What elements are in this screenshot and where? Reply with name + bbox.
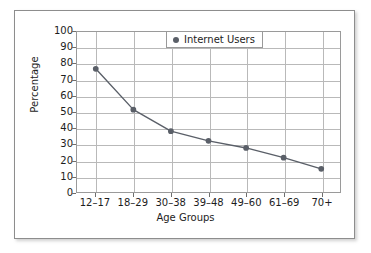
x-axis-tick-mark — [171, 193, 172, 197]
y-axis-tick-mark — [72, 161, 76, 162]
data-point-marker — [168, 128, 174, 134]
y-axis-tick-label: 80 — [39, 58, 73, 68]
x-axis-tick-label: 70+ — [294, 197, 350, 208]
y-axis-tick-label: 30 — [39, 139, 73, 149]
x-axis-tick-mark — [95, 193, 96, 197]
y-axis-tick-label: 50 — [39, 107, 73, 117]
data-point-marker — [318, 166, 324, 172]
x-axis-tick-mark — [284, 193, 285, 197]
y-axis-tick-label: 70 — [39, 75, 73, 85]
x-axis-tick-mark — [209, 193, 210, 197]
y-axis-tick-mark — [72, 193, 76, 194]
data-point-marker — [243, 145, 249, 151]
data-point-marker — [130, 107, 136, 113]
x-axis-tick-mark — [322, 193, 323, 197]
y-axis-tick-mark — [72, 80, 76, 81]
x-axis-title: Age Groups — [15, 212, 356, 223]
y-axis-tick-label: 40 — [39, 123, 73, 133]
y-axis-tick-mark — [72, 96, 76, 97]
legend-marker-icon — [173, 37, 179, 43]
line-series-internet-users — [77, 32, 340, 192]
y-axis-tick-mark — [72, 31, 76, 32]
y-axis-tick-label: 10 — [39, 172, 73, 182]
legend-label-internet-users: Internet Users — [184, 35, 255, 45]
data-point-marker — [93, 66, 99, 72]
y-axis-title: Percentage — [29, 35, 40, 135]
data-point-marker — [281, 155, 287, 161]
data-point-marker — [206, 138, 212, 144]
series-line-internet-users — [96, 69, 321, 169]
chart-legend: Internet Users — [166, 31, 263, 48]
x-axis-tick-mark — [133, 193, 134, 197]
y-axis-tick-mark — [72, 128, 76, 129]
x-axis-tick-mark — [246, 193, 247, 197]
y-axis-tick-mark — [72, 177, 76, 178]
chart-figure-frame: 0102030405060708090100 Percentage 12–171… — [14, 10, 355, 239]
y-axis-tick-label: 60 — [39, 91, 73, 101]
y-axis-tick-mark — [72, 144, 76, 145]
y-axis-tick-mark — [72, 112, 76, 113]
y-axis-tick-mark — [72, 47, 76, 48]
y-axis-tick-label: 100 — [39, 26, 73, 36]
y-axis-tick-label: 90 — [39, 42, 73, 52]
y-axis-tick-labels: 0102030405060708090100 — [35, 31, 73, 193]
plot-area — [76, 31, 341, 193]
y-axis-tick-label: 20 — [39, 156, 73, 166]
y-axis-tick-mark — [72, 63, 76, 64]
